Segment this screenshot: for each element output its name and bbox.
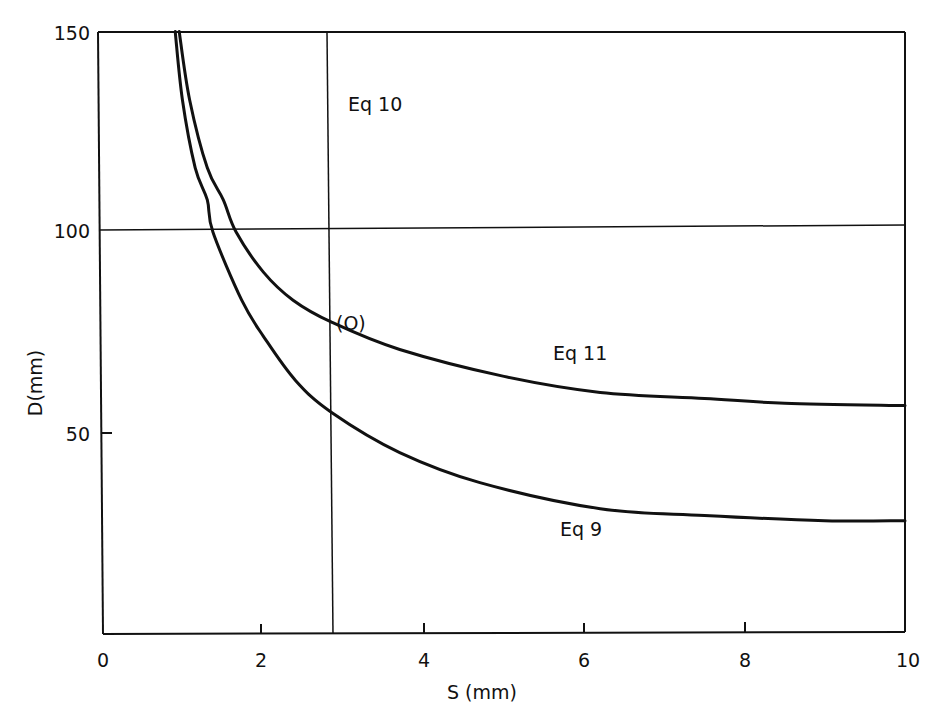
x-tick-label: 4 <box>418 649 430 671</box>
reference-line-d100-horizontal <box>99 225 905 230</box>
x-tick-label: 2 <box>255 649 267 671</box>
y-tick-label: 150 <box>54 22 90 44</box>
y-tick-label: 100 <box>54 220 90 242</box>
annotation-eq9: Eq 9 <box>560 518 602 540</box>
y-tick-labels: 50 100 150 <box>54 22 90 445</box>
curve-eq11 <box>179 32 905 406</box>
curve-eq9 <box>175 32 905 522</box>
x-tick-label: 0 <box>97 649 109 671</box>
plot-frame <box>98 32 905 634</box>
annotation-eq10: Eq 10 <box>348 93 402 115</box>
x-tick-label: 8 <box>739 649 751 671</box>
annotation-point-o: (O) <box>336 312 366 334</box>
x-axis-line <box>103 632 905 634</box>
chart: 0 2 4 6 8 10 50 100 150 S (mm) D(mm) Eq … <box>0 0 942 726</box>
x-tick-label: 6 <box>578 649 590 671</box>
y-tick-label: 50 <box>66 423 90 445</box>
x-tick-label: 10 <box>896 649 920 671</box>
reference-line-eq10-vertical <box>327 32 333 634</box>
y-axis-label: D(mm) <box>24 350 46 416</box>
x-tick-labels: 0 2 4 6 8 10 <box>97 649 920 671</box>
y-axis-line <box>98 32 103 634</box>
x-axis-label: S (mm) <box>447 681 517 703</box>
annotation-eq11: Eq 11 <box>553 342 607 364</box>
